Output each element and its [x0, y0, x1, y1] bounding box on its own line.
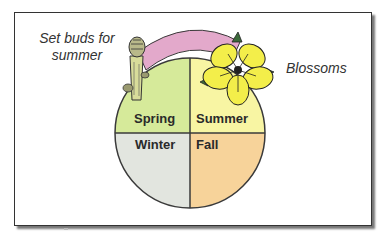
season-label-winter: Winter — [135, 137, 175, 152]
annotation-set-buds-line2: summer — [22, 47, 132, 64]
annotation-blossoms: Blossoms — [286, 60, 347, 77]
scan-artifact — [64, 228, 68, 230]
annotation-set-buds-line1: Set buds for — [22, 30, 132, 47]
season-label-summer: Summer — [196, 111, 248, 126]
season-label-spring: Spring — [134, 111, 175, 126]
season-label-fall: Fall — [196, 137, 218, 152]
annotation-set-buds: Set buds for summer — [22, 30, 132, 64]
